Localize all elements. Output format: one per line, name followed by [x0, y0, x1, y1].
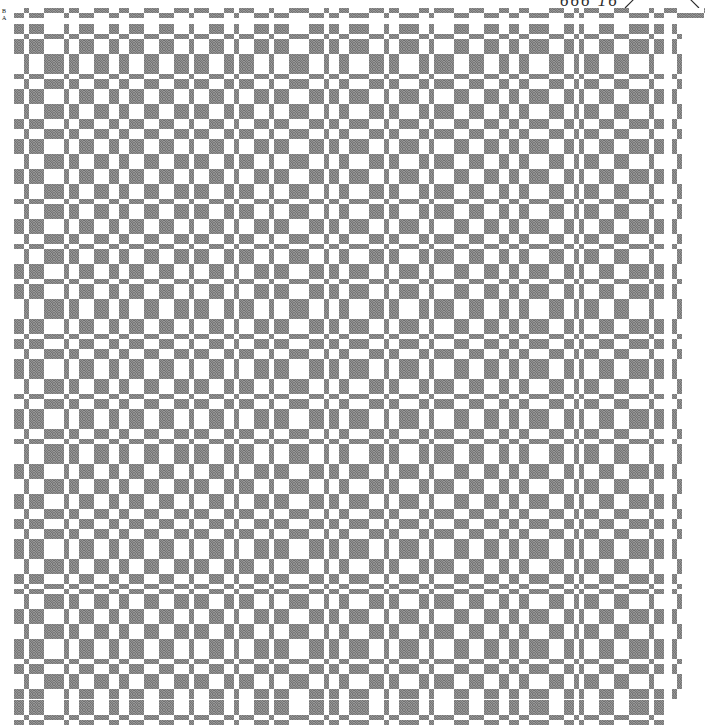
treadling-grid[interactable]	[672, 24, 682, 699]
weaving-draft-page: 666 16 B A	[0, 0, 705, 727]
shaft-label-a: A	[2, 15, 13, 22]
bottom-strip-canvas	[14, 700, 664, 725]
drawdown-grid[interactable]	[14, 24, 664, 699]
tieup-canvas[interactable]	[672, 8, 682, 18]
treadling-canvas[interactable]	[672, 24, 682, 699]
threading-shaft-labels: B A	[2, 8, 13, 21]
drawdown-bottom-strip	[14, 700, 664, 727]
threading-canvas[interactable]	[14, 8, 705, 18]
threading-grid[interactable]	[14, 8, 705, 18]
tieup-grid[interactable]	[672, 8, 682, 18]
drawdown-canvas[interactable]	[14, 24, 664, 699]
